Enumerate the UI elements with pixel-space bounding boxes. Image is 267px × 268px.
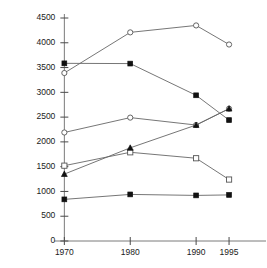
marker-open-square [226, 177, 231, 182]
y-tick-label: 0 [51, 235, 56, 245]
x-tick-label: 1970 [55, 247, 74, 257]
marker-filled-square [62, 61, 67, 66]
x-tick-label: 1990 [187, 247, 206, 257]
y-tick-label: 2000 [36, 136, 55, 146]
marker-open-circle [128, 115, 133, 120]
y-tick-label: 1000 [36, 186, 55, 196]
series-line-series-1 [64, 25, 229, 73]
marker-filled-square [227, 193, 232, 198]
marker-open-square [194, 156, 199, 161]
y-tick-label: 500 [41, 210, 55, 220]
marker-filled-square [194, 93, 199, 98]
marker-open-circle [62, 130, 67, 135]
marker-filled-square [62, 197, 67, 202]
y-tick-label: 4000 [36, 37, 55, 47]
marker-open-circle [128, 30, 133, 35]
marker-filled-triangle [61, 171, 67, 176]
marker-filled-square [128, 192, 133, 197]
marker-open-circle [62, 70, 67, 75]
y-tick-label: 2500 [36, 111, 55, 121]
marker-open-circle [226, 42, 231, 47]
series-line-series-2 [64, 63, 229, 120]
marker-open-circle [194, 23, 199, 28]
marker-filled-square [128, 61, 133, 66]
series-line-series-6 [64, 194, 229, 199]
y-tick-label: 3000 [36, 87, 55, 97]
series-line-series-5 [64, 109, 229, 174]
y-tick-label: 4500 [36, 12, 55, 22]
y-tick-label: 1500 [36, 161, 55, 171]
marker-open-square [62, 163, 67, 168]
y-tick-label: 3500 [36, 62, 55, 72]
marker-filled-square [194, 193, 199, 198]
marker-filled-square [227, 118, 232, 123]
chart-canvas: 0500100015002000250030003500400045001970… [0, 0, 267, 268]
line-chart: 0500100015002000250030003500400045001970… [0, 0, 267, 268]
series-line-series-4 [64, 152, 229, 179]
x-tick-label: 1980 [121, 247, 140, 257]
x-tick-label: 1995 [220, 247, 239, 257]
